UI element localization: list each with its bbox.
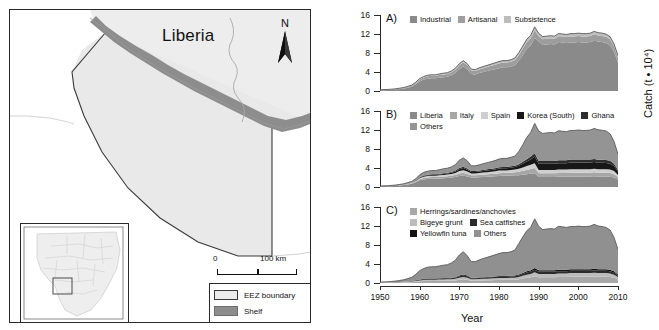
x-tick-label-2010: 2010 bbox=[603, 292, 633, 302]
shelf-swatch-icon bbox=[214, 306, 238, 316]
panel-a-ytick-4: 4 bbox=[348, 68, 370, 76]
map-frame: Liberia N 0 100 km bbox=[9, 9, 311, 323]
scale-bar: 0 100 km bbox=[215, 254, 310, 280]
chart-panel-b: 16 12 8 4 0 B) LiberiaItalySpainKorea (S… bbox=[348, 106, 620, 202]
panel-c-ytick-4: 4 bbox=[348, 260, 370, 268]
panel-a-ytick-8: 8 bbox=[348, 49, 370, 57]
chart-panel-c: 16 12 8 4 0 C) Herrings/sardines/anchovi… bbox=[348, 202, 620, 298]
scale-bar-min: 0 bbox=[213, 254, 217, 263]
north-arrow-label: N bbox=[272, 18, 298, 29]
map-panel: Liberia N 0 100 km bbox=[0, 0, 318, 330]
panel-c-plot bbox=[380, 207, 618, 283]
north-arrow: N bbox=[272, 18, 298, 66]
x-tick-label-1970: 1970 bbox=[444, 292, 474, 302]
panel-b-ytick-16: 16 bbox=[348, 107, 370, 115]
panel-b-ytick-0: 0 bbox=[348, 183, 370, 191]
panel-a-ytick-0: 0 bbox=[348, 87, 370, 95]
x-tick-label-2000: 2000 bbox=[563, 292, 593, 302]
panel-c-ytick-16: 16 bbox=[348, 203, 370, 211]
panel-a-ytick-16: 16 bbox=[348, 11, 370, 19]
panel-b-plot bbox=[380, 111, 618, 187]
map-legend: EEZ boundary Shelf bbox=[209, 283, 311, 323]
scale-bar-max: 100 km bbox=[260, 254, 286, 263]
panel-a-ytick-12: 12 bbox=[348, 30, 370, 38]
scale-bar-graphic bbox=[217, 269, 297, 275]
panel-b-ytick-4: 4 bbox=[348, 164, 370, 172]
map-title: Liberia bbox=[162, 26, 214, 46]
panel-b-ytick-12: 12 bbox=[348, 126, 370, 134]
ocean-east bbox=[272, 120, 310, 260]
x-tick-2010 bbox=[618, 286, 619, 290]
chart-panel-a: 16 12 8 4 0 A) IndustrialArtisanalSubsis… bbox=[348, 10, 620, 106]
x-tick-1980 bbox=[499, 286, 500, 290]
x-tick-2000 bbox=[578, 286, 579, 290]
inset-graphic bbox=[21, 224, 126, 322]
x-tick-label-1950: 1950 bbox=[365, 292, 395, 302]
panel-a-plot bbox=[380, 15, 618, 91]
x-tick-1990 bbox=[539, 286, 540, 290]
x-tick-label-1990: 1990 bbox=[524, 292, 554, 302]
chart-panel: Catch (t • 10⁴) 16 12 8 4 0 A) Industria… bbox=[318, 0, 626, 330]
north-arrow-icon bbox=[272, 29, 298, 65]
x-axis-label: Year bbox=[318, 312, 626, 324]
legend-item-eez-boundary: EEZ boundary bbox=[214, 287, 308, 303]
eez-swatch-icon bbox=[214, 290, 238, 300]
x-tick-1950 bbox=[380, 286, 381, 290]
legend-label-eez: EEZ boundary bbox=[244, 291, 295, 300]
panel-c-ytick-12: 12 bbox=[348, 222, 370, 230]
panel-c-ytick-8: 8 bbox=[348, 241, 370, 249]
panel-c-ytick-0: 0 bbox=[348, 279, 370, 287]
x-tick-1970 bbox=[459, 286, 460, 290]
legend-item-shelf: Shelf bbox=[214, 303, 308, 319]
legend-label-shelf: Shelf bbox=[244, 307, 262, 316]
inset-locator-map bbox=[20, 223, 129, 323]
x-tick-label-1980: 1980 bbox=[484, 292, 514, 302]
x-tick-1960 bbox=[420, 286, 421, 290]
panel-b-ytick-8: 8 bbox=[348, 145, 370, 153]
x-tick-label-1960: 1960 bbox=[405, 292, 435, 302]
